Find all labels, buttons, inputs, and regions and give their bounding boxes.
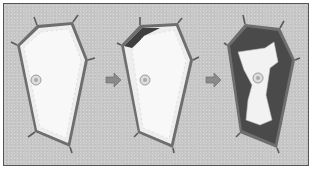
arrow-icon	[106, 73, 121, 87]
cell-turgid	[11, 15, 95, 153]
plasmolysis-diagram	[0, 0, 310, 169]
cell-incipient-plasmolysis	[117, 17, 199, 153]
cell-plasmolysed	[224, 15, 300, 153]
arrow-icon	[206, 73, 221, 87]
